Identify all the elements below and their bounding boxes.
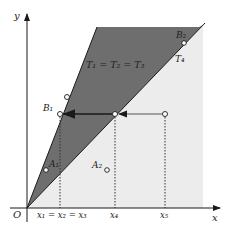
point-above-B1 [65, 95, 70, 100]
tick-label-x5: x₅ [160, 210, 169, 220]
x-axis-label: x [212, 212, 218, 223]
tick-label-x4: x₄ [110, 210, 119, 220]
point-A1 [44, 168, 49, 173]
dark-region-label: T₁ = T₂ = T₃ [86, 59, 145, 70]
y-axis-label: y [13, 10, 20, 21]
label-B2: B₂ [175, 30, 187, 40]
point-B1 [58, 112, 63, 117]
label-B1: B₁ [42, 103, 53, 113]
point-x4 [113, 112, 118, 117]
point-A2 [105, 168, 110, 173]
label-A2: A₂ [91, 160, 102, 170]
origin-label: O [13, 209, 21, 220]
diagram-canvas: y x O x₁ = x₂ = x₃ x₄ x₅ T₁ = T₂ = T₃ T₄… [0, 0, 236, 227]
label-A1: A₁ [48, 159, 59, 169]
point-B2 [182, 41, 187, 46]
light-region-label: T₄ [175, 54, 185, 64]
point-x5 [163, 112, 168, 117]
tick-label-x1-x2-x3: x₁ = x₂ = x₃ [37, 210, 87, 220]
